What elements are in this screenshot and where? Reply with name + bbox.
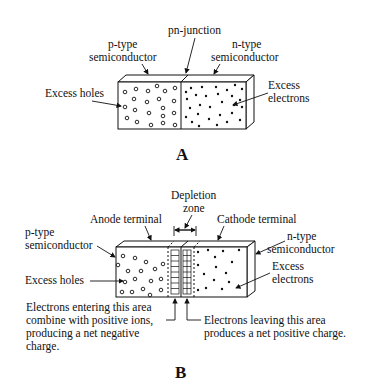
arrow-anode-terminal xyxy=(145,226,151,240)
label-excess-electrons-a: Excess xyxy=(268,79,300,91)
arrow-n-type-a xyxy=(214,64,220,74)
label-anode-terminal: Anode terminal xyxy=(90,213,162,225)
label-p-type-a-2: semiconductor xyxy=(89,51,157,63)
caption-b: B xyxy=(175,363,186,382)
caption-a: A xyxy=(176,145,189,164)
arrow-pn-junction xyxy=(186,38,195,73)
label-p-type-b: p-type xyxy=(25,226,54,239)
figure-b: Depletion zone Anode terminal Cathode te… xyxy=(25,189,346,382)
note-positive-1: Electrons leaving this area xyxy=(204,314,326,327)
depletion-bracket xyxy=(174,215,196,236)
label-depletion-2: zone xyxy=(183,202,205,214)
label-n-type-b: n-type xyxy=(287,230,316,243)
arrow-cathode-terminal xyxy=(218,226,224,240)
label-cathode-terminal: Cathode terminal xyxy=(217,213,297,225)
arrow-negative-note xyxy=(166,299,175,320)
label-n-type-a-2: semiconductor xyxy=(211,51,279,63)
label-excess-electrons-a-2: electrons xyxy=(268,92,310,104)
note-negative-3: producing a net negative xyxy=(26,327,139,340)
label-excess-electrons-b-2: electrons xyxy=(272,273,314,285)
note-negative-4: charge. xyxy=(26,340,59,353)
arrow-excess-holes-a xyxy=(92,101,121,106)
note-positive-2: produces a net positive charge. xyxy=(204,327,346,340)
negative-ion-grid xyxy=(171,250,179,294)
label-excess-holes-a: Excess holes xyxy=(45,87,105,99)
label-p-type-a: p-type xyxy=(108,38,137,51)
label-pn-junction: pn-junction xyxy=(168,24,221,37)
arrow-p-type-a xyxy=(142,64,148,74)
label-p-type-b-2: semiconductor xyxy=(25,239,93,251)
figure-a: p-type semiconductor pn-junction n-type … xyxy=(45,24,310,164)
diode-diagram: p-type semiconductor pn-junction n-type … xyxy=(0,0,390,391)
arrow-positive-note xyxy=(187,299,201,320)
label-depletion: Depletion xyxy=(171,189,217,202)
label-n-type-a: n-type xyxy=(232,38,261,51)
positive-ion-grid xyxy=(183,250,191,294)
label-excess-holes-b: Excess holes xyxy=(25,274,85,286)
arrow-p-type-b xyxy=(97,246,115,257)
note-negative-2: combine with positive ions, xyxy=(26,314,153,327)
label-excess-electrons-b: Excess xyxy=(272,260,304,272)
note-negative-1: Electrons entering this area xyxy=(26,301,152,314)
